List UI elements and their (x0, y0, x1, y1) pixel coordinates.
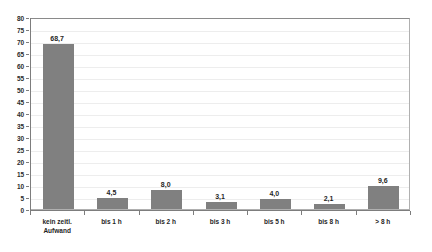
bar-value-label: 2,1 (309, 195, 349, 203)
bar-value-label: 9,6 (363, 177, 403, 185)
gridline (31, 163, 409, 164)
bar (260, 199, 291, 209)
gridline (31, 103, 409, 104)
y-axis-tick-mark (26, 66, 29, 67)
y-axis-tick-mark (26, 90, 29, 91)
x-axis-category-label: kein zeitl. Aufwand (30, 217, 84, 235)
x-axis-category-label: > 8 h (356, 217, 410, 226)
x-axis-line (30, 210, 410, 211)
y-axis-tick-mark (26, 198, 29, 199)
gridline (31, 115, 409, 116)
y-axis-tick-label: 25 (0, 147, 24, 154)
y-axis-tick-mark (26, 138, 29, 139)
x-axis-tick-mark (301, 211, 302, 215)
y-axis-tick-label: 15 (0, 171, 24, 178)
y-axis-line (30, 18, 31, 210)
y-axis-tick-label: 40 (0, 111, 24, 118)
x-axis-tick-mark (356, 211, 357, 215)
y-axis-tick-label: 75 (0, 27, 24, 34)
y-axis-tick-label: 55 (0, 75, 24, 82)
y-axis-tick-mark (26, 174, 29, 175)
gridline (31, 79, 409, 80)
bar (206, 202, 237, 209)
y-axis-tick-mark (26, 114, 29, 115)
gridline (31, 55, 409, 56)
gridline (31, 43, 409, 44)
plot-area (30, 18, 410, 210)
y-axis-tick-label: 65 (0, 51, 24, 58)
gridline (31, 151, 409, 152)
y-axis-tick-mark (26, 42, 29, 43)
x-axis-category-label: bis 8 h (301, 217, 355, 226)
chart-screenshot: 80757065605550454035302520151050 kein ze… (0, 0, 432, 252)
x-axis-category-label: bis 1 h (84, 217, 138, 226)
x-axis-tick-mark (410, 211, 411, 215)
y-axis-tick-mark (26, 186, 29, 187)
y-axis-tick-label: 60 (0, 63, 24, 70)
y-axis-tick-label: 80 (0, 15, 24, 22)
y-axis-tick-label: 35 (0, 123, 24, 130)
y-axis-tick-label: 20 (0, 159, 24, 166)
gridline (31, 187, 409, 188)
y-axis-tick-label: 30 (0, 135, 24, 142)
y-axis-tick-label: 70 (0, 39, 24, 46)
x-axis-category-label: bis 2 h (139, 217, 193, 226)
y-axis-tick-label: 5 (0, 195, 24, 202)
x-axis-category-label: bis 5 h (247, 217, 301, 226)
bar-value-label: 4,5 (91, 189, 131, 197)
x-axis-category-label: bis 3 h (193, 217, 247, 226)
y-axis-tick-mark (26, 210, 29, 211)
y-axis-tick-mark (26, 150, 29, 151)
gridline (31, 127, 409, 128)
y-axis-tick-mark (26, 102, 29, 103)
y-axis-tick-mark (26, 162, 29, 163)
y-axis-tick-mark (26, 78, 29, 79)
y-axis-tick-mark (26, 30, 29, 31)
bar-value-label: 3,1 (200, 193, 240, 201)
gridline (31, 175, 409, 176)
bar-value-label: 8,0 (146, 181, 186, 189)
x-axis-tick-mark (193, 211, 194, 215)
bar (97, 198, 128, 209)
gridline (31, 91, 409, 92)
y-axis-tick-mark (26, 18, 29, 19)
x-axis-tick-mark (30, 211, 31, 215)
x-axis-tick-mark (84, 211, 85, 215)
bar (368, 186, 399, 209)
x-axis-tick-mark (247, 211, 248, 215)
bar-value-label: 4,0 (254, 190, 294, 198)
bar (151, 190, 182, 209)
gridline (31, 139, 409, 140)
bar (314, 204, 345, 209)
y-axis-tick-label: 45 (0, 99, 24, 106)
y-axis-tick-mark (26, 126, 29, 127)
y-axis-tick-label: 10 (0, 183, 24, 190)
y-axis-tick-mark (26, 54, 29, 55)
bar (43, 44, 74, 209)
y-axis-tick-label: 0 (0, 207, 24, 214)
gridline (31, 31, 409, 32)
x-axis-tick-mark (139, 211, 140, 215)
y-axis-tick-label: 50 (0, 87, 24, 94)
bar-value-label: 68,7 (37, 35, 77, 43)
gridline (31, 67, 409, 68)
